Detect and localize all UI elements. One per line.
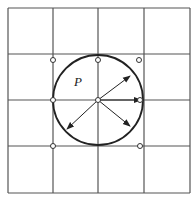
open-point-marker: [51, 58, 56, 63]
open-point-marker: [137, 58, 142, 63]
open-point-marker: [51, 144, 56, 149]
circle-grid-diagram: P: [0, 0, 196, 198]
open-point-marker: [138, 98, 143, 103]
open-point-marker: [96, 98, 101, 103]
arrow-down-left-icon: [67, 100, 98, 129]
arrow-up-right-icon: [98, 76, 130, 100]
open-point-marker: [96, 58, 101, 63]
open-point-marker: [51, 98, 56, 103]
arrow-down-right-icon: [98, 100, 130, 126]
circle-label: P: [73, 74, 82, 89]
open-point-marker: [138, 144, 143, 149]
